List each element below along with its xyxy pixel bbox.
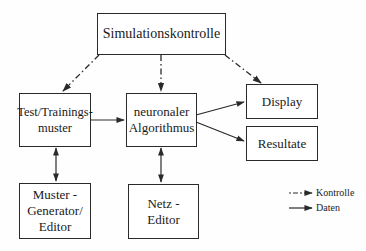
legend-data-label: Daten bbox=[316, 202, 340, 214]
node-label: neuronaler Algorithmus bbox=[129, 104, 195, 136]
node-display: Display bbox=[246, 84, 318, 119]
data-arrow-algorithm-to-results bbox=[196, 122, 244, 141]
node-neural-algorithm: neuronaler Algorithmus bbox=[126, 93, 197, 147]
node-label: Display bbox=[262, 94, 302, 110]
node-label: Test/Trainings- muster bbox=[17, 104, 93, 136]
node-pattern-generator-editor: Muster - Generator/ Editor bbox=[19, 183, 91, 239]
control-arrow-to-test-training bbox=[63, 55, 99, 91]
node-label: Netz - Editor bbox=[147, 196, 180, 228]
node-net-editor: Netz - Editor bbox=[128, 184, 199, 239]
node-label: Muster - Generator/ Editor bbox=[27, 187, 83, 235]
data-arrow-algorithm-to-display bbox=[196, 102, 244, 115]
node-test-training-patterns: Test/Trainings- muster bbox=[19, 93, 91, 147]
architecture-diagram: Simulationskontrolle Test/Trainings- mus… bbox=[0, 0, 366, 251]
node-simulation-control: Simulationskontrolle bbox=[97, 13, 226, 55]
node-label: Simulationskontrolle bbox=[103, 26, 220, 42]
node-results: Resultate bbox=[246, 126, 318, 161]
node-label: Resultate bbox=[258, 136, 306, 152]
control-arrow-to-display bbox=[225, 55, 261, 83]
legend-control-label: Kontrolle bbox=[316, 187, 354, 199]
